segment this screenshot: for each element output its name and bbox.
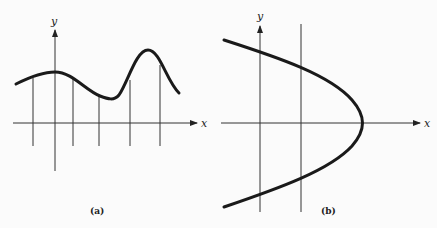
curve-a [16, 50, 179, 99]
vertical-lines [33, 65, 160, 146]
y-axis-label-a: y [50, 15, 58, 28]
y-axis-label-b: y [256, 10, 264, 23]
figure: y x (a) y x (b) [0, 0, 437, 228]
caption-a: (a) [90, 206, 104, 216]
x-axis-label-a: x [201, 117, 208, 130]
panel-a: y x (a) [13, 15, 208, 216]
x-axis-label-b: x [424, 117, 431, 130]
panel-b: y x (b) [221, 10, 431, 216]
caption-b: (b) [321, 206, 336, 216]
